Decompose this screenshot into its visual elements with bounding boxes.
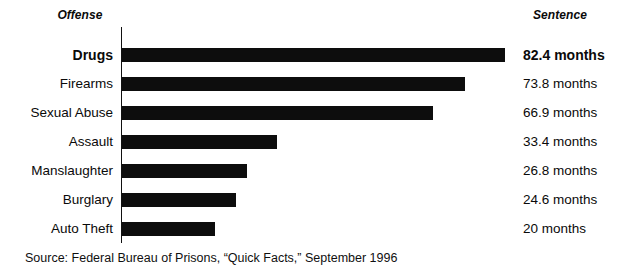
- bar-value-label: 26.8 months: [523, 160, 597, 182]
- bar-row: Assault33.4 months: [0, 131, 619, 153]
- bar-category-label: Assault: [0, 131, 113, 153]
- bar-track: [122, 73, 505, 95]
- bar-category-label: Sexual Abuse: [0, 102, 113, 124]
- bar-fill: [122, 48, 505, 62]
- bar-track: [122, 189, 505, 211]
- bar-category-label: Drugs: [0, 44, 113, 66]
- bar-fill: [122, 222, 215, 236]
- bar-fill: [122, 106, 433, 120]
- bar-track: [122, 102, 505, 124]
- bar-value-label: 33.4 months: [523, 131, 597, 153]
- bar-value-label: 66.9 months: [523, 102, 597, 124]
- bar-track: [122, 44, 505, 66]
- bar-fill: [122, 77, 465, 91]
- bar-value-label: 82.4 months: [523, 44, 605, 66]
- bar-track: [122, 131, 505, 153]
- bar-row: Auto Theft20 months: [0, 218, 619, 240]
- bar-category-label: Auto Theft: [0, 218, 113, 240]
- plot-area: Drugs82.4 monthsFirearms73.8 monthsSexua…: [0, 0, 619, 250]
- bar-row: Sexual Abuse66.9 months: [0, 102, 619, 124]
- bar-value-label: 20 months: [523, 218, 586, 240]
- bar-fill: [122, 193, 236, 207]
- bar-category-label: Manslaughter: [0, 160, 113, 182]
- source-note: Source: Federal Bureau of Prisons, “Quic…: [25, 251, 397, 265]
- bar-fill: [122, 135, 277, 149]
- bar-row: Firearms73.8 months: [0, 73, 619, 95]
- bar-track: [122, 160, 505, 182]
- bar-row: Burglary24.6 months: [0, 189, 619, 211]
- bar-category-label: Burglary: [0, 189, 113, 211]
- bar-row: Drugs82.4 months: [0, 44, 619, 66]
- bar-chart: Offense Sentence Drugs82.4 monthsFirearm…: [0, 0, 619, 272]
- bar-value-label: 24.6 months: [523, 189, 597, 211]
- bar-category-label: Firearms: [0, 73, 113, 95]
- bar-track: [122, 218, 505, 240]
- bar-row: Manslaughter26.8 months: [0, 160, 619, 182]
- bar-fill: [122, 164, 247, 178]
- bar-value-label: 73.8 months: [523, 73, 597, 95]
